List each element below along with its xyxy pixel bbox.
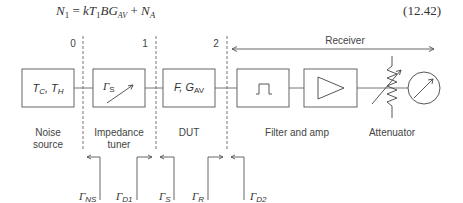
caption-tuner-line2: tuner [108, 139, 131, 150]
plane-label-1: 1 [142, 38, 148, 49]
amplifier-block [304, 69, 357, 107]
block-captions: Noise source Impedance tuner DUT Filter … [33, 127, 416, 150]
equation: N1 = kT1BGAV + NA (12.42) [55, 3, 441, 20]
reflection-labels: ΓNS ΓD1 ΓS ΓR ΓD2 [78, 190, 267, 203]
svg-text:N1 = kT1BGAV + NA: N1 = kT1BGAV + NA [55, 3, 156, 20]
plane-label-0: 0 [70, 38, 76, 49]
gamma-r-label: ΓR [191, 190, 204, 203]
dut-block: F, GAV [163, 69, 215, 107]
gamma-d2-label: ΓD2 [249, 190, 267, 203]
caption-filter-amp: Filter and amp [265, 127, 329, 138]
filter-block [237, 69, 289, 107]
gamma-ns-label: ΓNS [78, 190, 97, 203]
gamma-s-label: ΓS [158, 190, 171, 203]
attenuator-icon [372, 56, 401, 118]
gamma-ns-arrow [87, 157, 100, 200]
gamma-d1-arrow [137, 157, 152, 200]
caption-tuner-line1: Impedance [94, 127, 144, 138]
receiver-span: Receiver [232, 35, 434, 52]
power-meter-icon [408, 72, 440, 104]
reflection-arrows [87, 155, 244, 200]
gamma-d1-label: ΓD1 [115, 190, 133, 203]
gamma-r-arrow [208, 157, 223, 200]
caption-attenuator: Attenuator [369, 127, 416, 138]
equation-number: (12.42) [403, 3, 441, 18]
caption-noise-line2: source [33, 139, 63, 150]
plane-label-2: 2 [213, 38, 219, 49]
noise-measurement-diagram: N1 = kT1BGAV + NA (12.42) 0 1 2 Receiver… [0, 0, 463, 203]
caption-noise-line1: Noise [35, 127, 61, 138]
receiver-label: Receiver [325, 35, 365, 46]
caption-dut: DUT [179, 127, 200, 138]
noise-source-block: TC, TH [22, 69, 74, 107]
gamma-d2-arrow [231, 157, 244, 200]
impedance-tuner-block: ΓS [93, 69, 145, 107]
